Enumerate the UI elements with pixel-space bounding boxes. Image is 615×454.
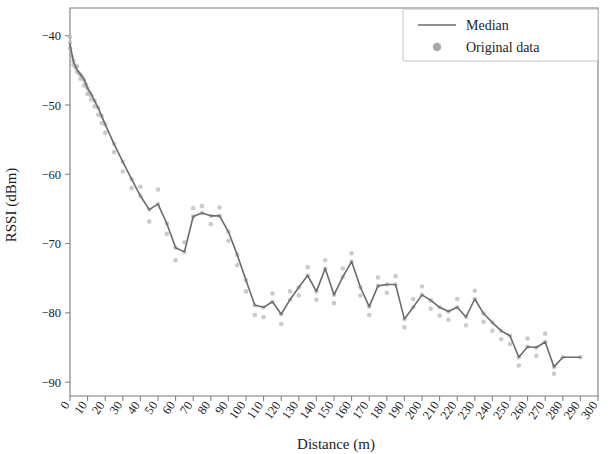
scatter-point [393,274,398,279]
x-axis-title: Distance (m) [297,436,375,453]
scatter-point [508,342,513,347]
scatter-point [429,306,434,311]
chart-legend: Median Original data [403,9,598,61]
scatter-point [385,290,390,295]
scatter-point [253,313,258,318]
scatter-point [490,329,495,334]
chart-figure: 0102030405060708090100110120130140150160… [0,0,615,454]
y-tick-label: −40 [41,29,61,43]
y-tick-label: −50 [41,99,61,113]
scatter-point [209,222,214,227]
scatter-point [138,184,143,189]
scatter-point [191,206,196,211]
legend-original-data-marker-swatch [433,43,441,51]
scatter-point [525,336,530,341]
scatter-point [552,372,557,377]
scatter-point [314,297,319,302]
scatter-point [297,293,302,298]
scatter-point [200,204,205,209]
scatter-point [68,35,73,40]
scatter-point [226,239,231,244]
scatter-point [244,289,249,294]
scatter-point [376,275,381,280]
scatter-point [517,363,522,368]
y-tick-label: −70 [41,237,61,251]
scatter-point [173,258,178,263]
y-tick-label: −60 [41,168,61,182]
scatter-point [481,320,486,325]
scatter-point [446,317,451,322]
scatter-point [402,325,407,330]
scatter-point [332,301,337,306]
scatter-point [499,337,504,342]
scatter-point [323,258,328,263]
y-tick-label: −80 [41,306,61,320]
legend-label-median: Median [466,18,509,33]
scatter-point [156,187,161,192]
scatter-point [288,289,293,294]
legend-label-original-data: Original data [466,40,540,55]
scatter-point [235,263,240,268]
scatter-point [367,313,372,318]
scatter-point [121,169,126,174]
scatter-point [349,251,354,256]
chart-background [0,0,615,454]
scatter-point [464,323,469,328]
scatter-point [473,288,478,293]
scatter-point [358,293,363,298]
rssi-distance-line-chart: 0102030405060708090100110120130140150160… [0,0,615,454]
scatter-point [543,331,548,336]
scatter-point [437,313,442,318]
scatter-point [112,150,117,155]
scatter-point [165,232,170,237]
scatter-point [217,205,222,210]
scatter-point [103,130,108,135]
scatter-point [279,322,284,327]
scatter-point [455,297,460,302]
scatter-point [305,265,310,270]
scatter-point [129,186,134,191]
scatter-point [147,219,152,224]
scatter-point [534,354,539,359]
scatter-point [270,291,275,296]
scatter-point [341,266,346,271]
y-axis-title: RSSI (dBm) [3,168,20,243]
scatter-point [261,315,266,320]
scatter-point [420,284,425,289]
scatter-point [411,297,416,302]
y-tick-label: −90 [41,376,61,390]
